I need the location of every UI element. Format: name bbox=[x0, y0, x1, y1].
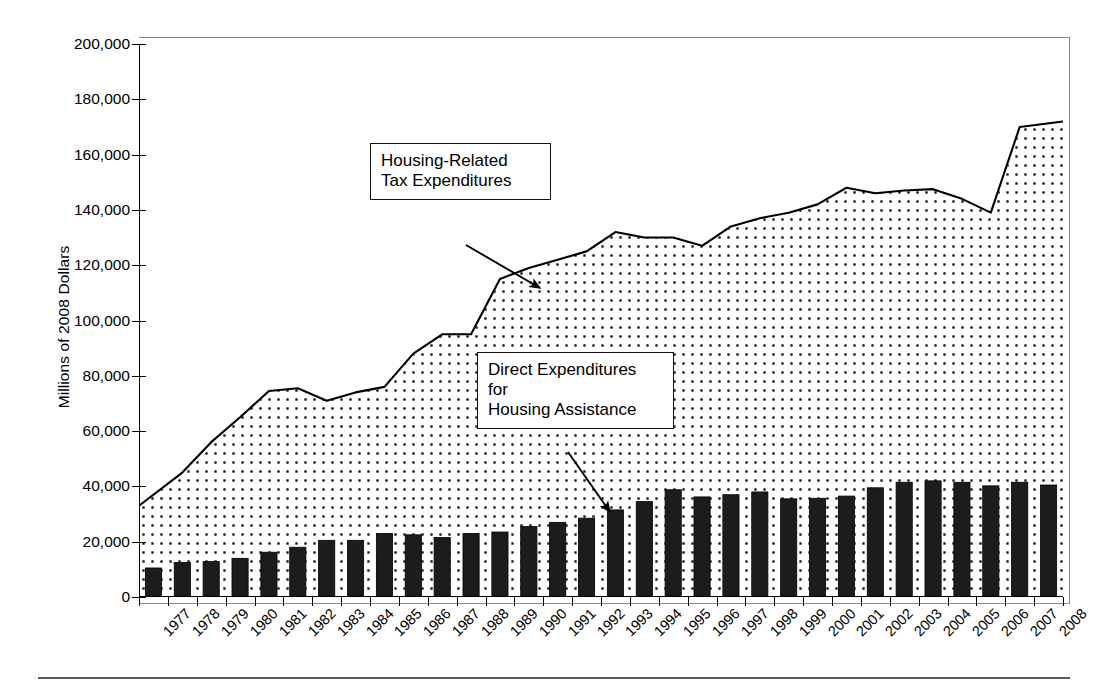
x-tick-label: 1993 bbox=[623, 606, 656, 639]
y-tick-mark bbox=[132, 431, 146, 432]
x-tick-label: 1999 bbox=[796, 606, 829, 639]
bar bbox=[261, 552, 277, 597]
y-tick-label: 100,000 bbox=[44, 313, 130, 329]
x-tick-label: 2003 bbox=[912, 606, 945, 639]
x-tick-label: 2007 bbox=[1027, 606, 1060, 639]
footer-rule bbox=[38, 677, 1070, 679]
y-tick-label: 140,000 bbox=[44, 202, 130, 218]
x-tick-label: 2002 bbox=[883, 606, 916, 639]
bar bbox=[781, 499, 797, 597]
bar bbox=[954, 482, 970, 597]
x-tick-label: 1977 bbox=[161, 606, 194, 639]
bar bbox=[492, 532, 508, 597]
x-tick-label: 1988 bbox=[479, 606, 512, 639]
y-tick-label: 180,000 bbox=[44, 92, 130, 108]
x-tick-label: 1987 bbox=[450, 606, 483, 639]
bar bbox=[550, 522, 566, 597]
y-tick-mark bbox=[132, 99, 146, 100]
x-tick-label: 1985 bbox=[392, 606, 425, 639]
bar bbox=[752, 492, 768, 597]
bar bbox=[607, 510, 623, 597]
y-tick-label: 120,000 bbox=[44, 257, 130, 273]
bar bbox=[521, 526, 537, 597]
bar bbox=[434, 538, 450, 597]
bar bbox=[463, 533, 479, 597]
callout-direct-expenditures: Direct Expenditures for Housing Assistan… bbox=[477, 352, 674, 429]
x-tick-label: 1996 bbox=[710, 606, 743, 639]
x-tick-label: 1986 bbox=[421, 606, 454, 639]
x-tick-label: 1991 bbox=[565, 606, 598, 639]
bar bbox=[232, 558, 248, 597]
plot-canvas bbox=[139, 44, 1063, 597]
bar bbox=[867, 488, 883, 597]
y-tick-mark bbox=[132, 486, 146, 487]
bar bbox=[405, 535, 421, 597]
bar bbox=[145, 568, 161, 597]
y-tick-mark bbox=[132, 265, 146, 266]
x-tick-label: 1992 bbox=[594, 606, 627, 639]
y-tick-label: 160,000 bbox=[44, 147, 130, 163]
bar bbox=[694, 497, 710, 597]
y-tick-mark bbox=[132, 155, 146, 156]
bar bbox=[203, 562, 219, 597]
x-tick-label: 1998 bbox=[767, 606, 800, 639]
y-tick-label: 0 bbox=[44, 589, 130, 605]
x-axis-tick-labels: 1977197819791980198119821983198419851986… bbox=[139, 600, 1063, 686]
x-tick-label: 2000 bbox=[825, 606, 858, 639]
bar bbox=[174, 562, 190, 597]
x-tick-label: 1983 bbox=[334, 606, 367, 639]
y-tick-mark bbox=[132, 210, 146, 211]
y-tick-label: 80,000 bbox=[44, 368, 130, 384]
x-tick-label: 1990 bbox=[536, 606, 569, 639]
x-tick-mark bbox=[1063, 597, 1064, 606]
x-tick-label: 1979 bbox=[219, 606, 252, 639]
y-tick-mark bbox=[132, 376, 146, 377]
bar bbox=[983, 486, 999, 597]
x-tick-label: 1995 bbox=[681, 606, 714, 639]
bar bbox=[1012, 482, 1028, 597]
bar bbox=[723, 495, 739, 597]
x-tick-label: 1982 bbox=[305, 606, 338, 639]
x-tick-label: 2001 bbox=[854, 606, 887, 639]
x-tick-label: 1989 bbox=[507, 606, 540, 639]
bar bbox=[1040, 485, 1056, 597]
chart-figure: Millions of 2008 Dollars 020,00040,00060… bbox=[0, 0, 1106, 688]
x-tick-label: 1978 bbox=[190, 606, 223, 639]
x-tick-label: 2005 bbox=[969, 606, 1002, 639]
bar bbox=[319, 540, 335, 597]
bar bbox=[838, 496, 854, 597]
x-tick-label: 2008 bbox=[1056, 606, 1089, 639]
y-axis-tick-labels: 020,00040,00060,00080,000100,000120,0001… bbox=[22, 0, 130, 688]
bar bbox=[925, 481, 941, 597]
y-tick-label: 200,000 bbox=[44, 36, 130, 52]
y-tick-label: 40,000 bbox=[44, 479, 130, 495]
x-tick-label: 1980 bbox=[248, 606, 281, 639]
y-tick-label: 60,000 bbox=[44, 423, 130, 439]
x-tick-label: 2006 bbox=[998, 606, 1031, 639]
x-tick-label: 1981 bbox=[276, 606, 309, 639]
bar bbox=[636, 502, 652, 597]
y-tick-label: 20,000 bbox=[44, 534, 130, 550]
bar bbox=[578, 518, 594, 597]
y-tick-mark bbox=[132, 542, 146, 543]
bar bbox=[347, 540, 363, 597]
x-tick-label: 2004 bbox=[941, 606, 974, 639]
x-tick-label: 1984 bbox=[363, 606, 396, 639]
bar bbox=[665, 490, 681, 597]
bar bbox=[809, 498, 825, 597]
bar bbox=[896, 482, 912, 597]
bar bbox=[290, 547, 306, 597]
callout-tax-expenditures: Housing-Related Tax Expenditures bbox=[370, 143, 551, 200]
x-tick-label: 1994 bbox=[652, 606, 685, 639]
bar bbox=[376, 533, 392, 597]
y-tick-mark bbox=[132, 44, 146, 45]
x-tick-label: 1997 bbox=[738, 606, 771, 639]
plot-area bbox=[139, 44, 1063, 597]
y-tick-mark bbox=[132, 321, 146, 322]
